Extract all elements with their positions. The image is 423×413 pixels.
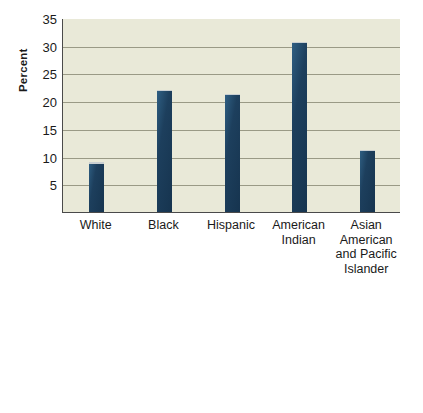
plot-area [62, 19, 400, 213]
y-tick-10: 10 [21, 151, 57, 164]
y-tick-15: 15 [21, 123, 57, 136]
x-label-line: and Pacific [323, 247, 409, 262]
y-tick-20: 20 [21, 96, 57, 109]
x-label-line: Islander [323, 262, 409, 277]
bar-cap [225, 94, 240, 96]
figure-chart: Percent 3530252015105 WhiteBlackHispanic… [0, 0, 423, 292]
x-label-line: American [323, 233, 409, 248]
bar-asian-american-and-pacific-islander [360, 150, 375, 212]
bar-white [89, 162, 104, 212]
y-tick-25: 25 [21, 68, 57, 81]
bar-cap [89, 162, 104, 164]
y-tick-30: 30 [21, 40, 57, 53]
gridline-30 [63, 47, 400, 48]
x-label-asian-american-and-pacific-islander: AsianAmericanand PacificIslander [323, 218, 409, 276]
figure-caption: FIGURE 2.3 Percent of Population in Pove… [0, 292, 423, 413]
bar-hispanic [225, 94, 240, 212]
y-tick-35: 35 [21, 13, 57, 26]
gridline-25 [63, 74, 400, 75]
y-tick-5: 5 [21, 179, 57, 192]
bar-cap [292, 42, 307, 44]
bar-cap [157, 90, 172, 92]
x-label-line: Asian [323, 218, 409, 233]
bar-cap [360, 150, 375, 152]
plot-inner [63, 19, 400, 212]
bar-black [157, 90, 172, 212]
bar-american-indian [292, 42, 307, 212]
